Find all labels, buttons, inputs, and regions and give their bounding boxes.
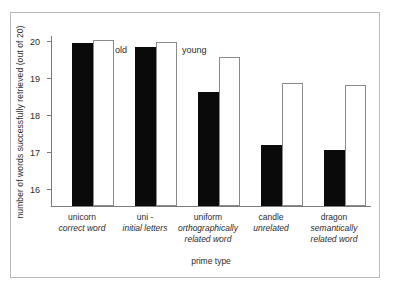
bar-old-uniform	[198, 92, 219, 206]
y-tick-label-16: 16	[30, 186, 40, 195]
x-category-dragon: dragon semantically related word	[289, 212, 379, 245]
bar-old-candle	[261, 145, 282, 206]
y-tick-label-17: 17	[30, 149, 40, 158]
y-tick-20: 20	[47, 41, 52, 42]
bar-young-uniform	[219, 57, 240, 206]
bar-old-unicorn	[72, 43, 93, 206]
plot-area: 20 19 18 17 16 old young	[51, 36, 371, 207]
x-category-dragon-sec2: related word	[289, 234, 379, 245]
bar-chart-figure: number of words successfully retrieved (…	[0, 0, 394, 290]
series-label-young: young	[182, 46, 207, 55]
y-tick-19: 19	[47, 78, 52, 79]
x-category-dragon-primary: dragon	[289, 212, 379, 223]
y-axis-title-text: number of words successfully retrieved (…	[15, 25, 25, 218]
bar-young-candle	[282, 83, 303, 206]
bar-young-dragon	[345, 85, 366, 206]
y-tick-label-18: 18	[30, 112, 40, 121]
series-label-old: old	[115, 46, 127, 55]
y-tick-17: 17	[47, 152, 52, 153]
y-tick-16: 16	[47, 189, 52, 190]
y-tick-label-20: 20	[30, 38, 40, 47]
bar-young-uni	[156, 42, 177, 206]
bar-old-uni	[135, 47, 156, 206]
bar-young-unicorn	[93, 40, 114, 206]
y-tick-18: 18	[47, 115, 52, 116]
x-axis-title: prime type	[51, 256, 371, 266]
y-tick-label-19: 19	[30, 75, 40, 84]
x-category-uniform-sec2: related word	[163, 234, 253, 245]
bar-old-dragon	[324, 150, 345, 206]
x-category-dragon-sec1: semantically	[289, 223, 379, 234]
y-axis-title: number of words successfully retrieved (…	[13, 36, 27, 207]
